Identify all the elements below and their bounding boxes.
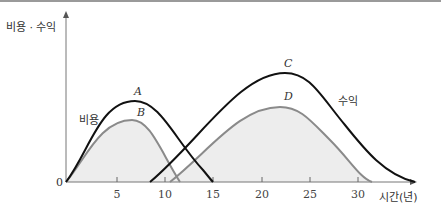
x-tick-label: 5 — [114, 188, 121, 201]
cost-label: 비용 — [79, 111, 99, 127]
annotation-b: B — [137, 106, 145, 119]
x-axis-label: 시간(년) — [379, 188, 418, 204]
x-tick-label: 25 — [303, 188, 317, 201]
y-axis-label: 비용 · 수익 — [6, 18, 57, 34]
annotation-a: A — [134, 85, 142, 98]
x-tick-label: 10 — [158, 188, 172, 201]
origin-label: 0 — [56, 176, 63, 189]
revenue-label: 수익 — [338, 92, 358, 108]
chart-plot — [0, 0, 441, 212]
annotation-c: C — [284, 57, 292, 70]
y-axis-arrow — [63, 11, 69, 18]
x-tick-label: 20 — [255, 188, 269, 201]
annotation-d: D — [284, 90, 293, 103]
x-tick-label: 30 — [351, 188, 365, 201]
curve-d-fill — [170, 107, 372, 182]
x-tick-label: 15 — [206, 188, 220, 201]
